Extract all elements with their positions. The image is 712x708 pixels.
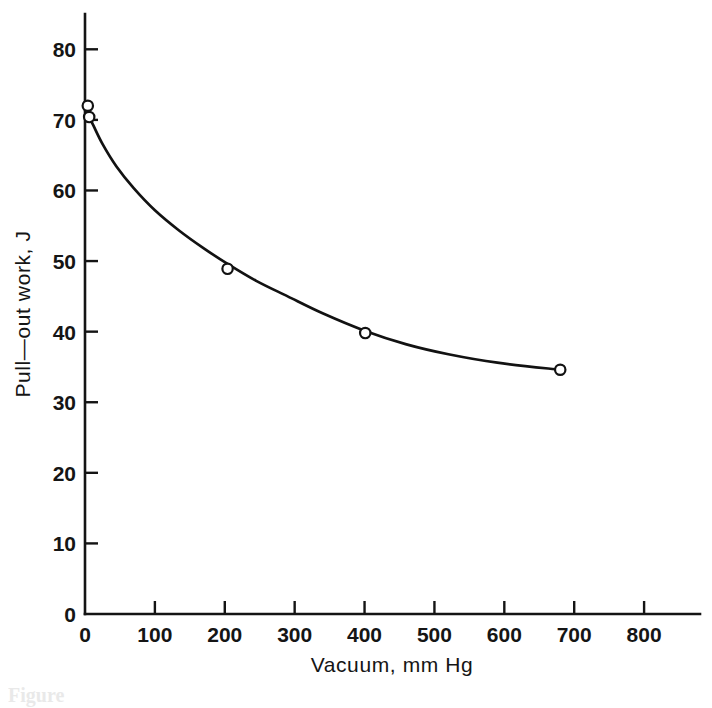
- y-tick-label-60: 60: [53, 179, 76, 202]
- x-tick-label-400: 400: [347, 623, 382, 646]
- x-tick-label-700: 700: [557, 623, 592, 646]
- x-axis-ticks: [155, 601, 644, 614]
- x-tick-label-200: 200: [207, 623, 242, 646]
- y-axis-title: Pull—out work, J: [11, 230, 34, 397]
- data-point-marker: [555, 365, 565, 375]
- x-axis-tick-labels: 0100200300400500600700800: [79, 623, 661, 646]
- x-tick-label-800: 800: [627, 623, 662, 646]
- y-tick-label-0: 0: [64, 603, 76, 626]
- y-tick-label-10: 10: [53, 532, 76, 555]
- y-tick-label-40: 40: [53, 321, 76, 344]
- data-point-marker: [83, 101, 93, 111]
- y-tick-label-50: 50: [53, 250, 76, 273]
- x-tick-label-300: 300: [277, 623, 312, 646]
- y-tick-label-20: 20: [53, 462, 76, 485]
- y-tick-label-70: 70: [53, 109, 76, 132]
- data-point-marker: [222, 264, 232, 274]
- data-point-marker: [360, 328, 370, 338]
- y-axis-tick-labels: 01020304050607080: [53, 38, 76, 626]
- x-tick-label-500: 500: [417, 623, 452, 646]
- axes-group: [85, 14, 700, 614]
- figure-caption-fragment: Figure: [8, 682, 268, 708]
- figure-root: 01020304050607080 0100200300400500600700…: [0, 0, 712, 708]
- series-markers: [83, 101, 566, 375]
- y-tick-label-30: 30: [53, 391, 76, 414]
- x-tick-label-600: 600: [487, 623, 522, 646]
- series-curve: [86, 113, 560, 370]
- x-tick-label-0: 0: [79, 623, 91, 646]
- x-tick-label-100: 100: [137, 623, 172, 646]
- chart-plot: 01020304050607080 0100200300400500600700…: [0, 0, 712, 708]
- data-point-marker: [84, 112, 94, 122]
- y-tick-label-80: 80: [53, 38, 76, 61]
- x-axis-title: Vacuum, mm Hg: [311, 653, 474, 676]
